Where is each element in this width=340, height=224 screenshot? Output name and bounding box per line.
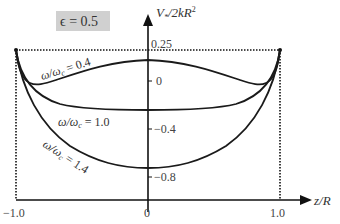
y-axis-arrow-icon [143,14,153,26]
x-tick-label-m1: −1.0 [3,206,25,220]
chart: ϵ = 0.5 0.25 0 −0.4 −0.8 −1.0 0 1.0 V*/2… [0,0,340,224]
x-tick-label-0: 0 [144,206,150,220]
x-tick-label-1: 1.0 [270,206,285,220]
epsilon-label: ϵ = 0.5 [60,14,98,29]
y-tick-label-0: 0 [156,74,162,88]
y-tick-label-025: 0.25 [151,37,172,51]
epsilon-badge: ϵ = 0.5 [56,11,110,31]
curve-label-0.4: ω/ωc = 0.4 [39,54,93,83]
curve-label-1.0: ω/ωc = 1.0 [58,115,110,130]
y-axis-label: V*/2kR2 [156,5,196,22]
y-tick-label-m04: −0.4 [154,122,176,136]
y-tick-label-m08: −0.8 [154,170,176,184]
x-axis-arrow-icon [300,195,312,205]
x-axis-label: z/R [313,193,331,208]
